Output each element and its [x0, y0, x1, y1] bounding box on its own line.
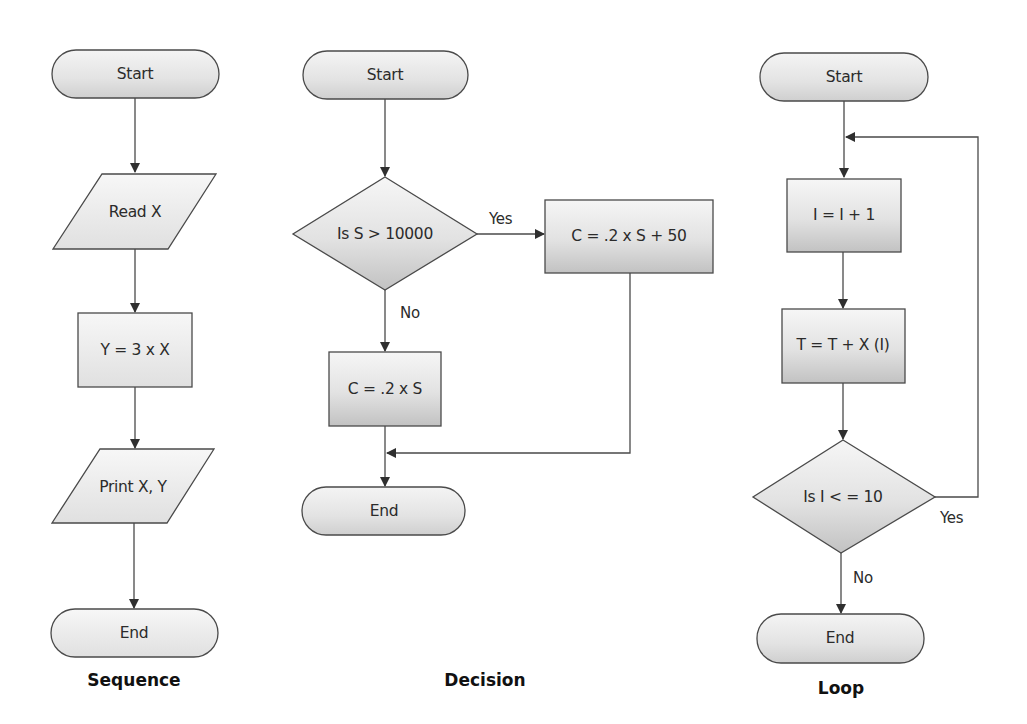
- accumulate-process: T = T + X (I): [782, 309, 905, 383]
- start-terminator: Start: [52, 50, 219, 98]
- node-label: Start: [367, 66, 404, 84]
- node-label: Y = 3 x X: [99, 341, 170, 359]
- loop-caption: Loop: [818, 678, 864, 698]
- node-label: Is I < = 10: [803, 488, 882, 506]
- decision-flowchart: Start Is S > 10000 Yes No C = .2 x S + 5…: [293, 51, 713, 690]
- decision-diamond: Is S > 10000: [293, 177, 477, 290]
- end-terminator: End: [757, 614, 924, 663]
- print-output: Print X, Y: [52, 449, 214, 523]
- decision-caption: Decision: [444, 670, 525, 690]
- node-label: Print X, Y: [99, 478, 167, 496]
- flowchart-canvas: Start Read X Y = 3 x X Print X, Y End Se…: [0, 0, 1027, 724]
- no-process: C = .2 x S: [329, 352, 441, 426]
- node-label: Start: [117, 65, 154, 83]
- node-label: End: [120, 624, 149, 642]
- loop-flowchart: Start I = I + 1 T = T + X (I) Is I < = 1…: [753, 53, 978, 698]
- node-label: Start: [826, 68, 863, 86]
- yes-label: Yes: [939, 509, 964, 527]
- end-terminator: End: [51, 609, 218, 657]
- decision-diamond: Is I < = 10: [753, 440, 935, 553]
- node-label: C = .2 x S + 50: [571, 227, 686, 245]
- node-label: I = I + 1: [813, 206, 875, 224]
- node-label: End: [370, 502, 399, 520]
- read-x-input: Read X: [53, 174, 216, 249]
- no-label: No: [853, 569, 873, 587]
- sequence-caption: Sequence: [87, 670, 180, 690]
- start-terminator: Start: [303, 51, 468, 99]
- node-label: Read X: [109, 203, 162, 221]
- yes-label: Yes: [488, 210, 513, 228]
- compute-y-process: Y = 3 x X: [78, 313, 192, 387]
- yes-process: C = .2 x S + 50: [545, 200, 713, 273]
- node-label: C = .2 x S: [348, 380, 422, 398]
- no-label: No: [400, 304, 420, 322]
- node-label: End: [826, 629, 855, 647]
- increment-process: I = I + 1: [787, 179, 901, 252]
- end-terminator: End: [302, 487, 465, 535]
- node-label: T = T + X (I): [796, 336, 890, 354]
- node-label: Is S > 10000: [337, 225, 433, 243]
- start-terminator: Start: [760, 53, 928, 101]
- sequence-flowchart: Start Read X Y = 3 x X Print X, Y End Se…: [51, 50, 219, 690]
